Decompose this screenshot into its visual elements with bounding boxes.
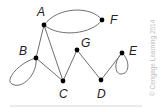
vertex-e <box>120 51 125 56</box>
graph-diagram: A B C D E F G © Cengage Learning 2014 <box>0 0 163 108</box>
label-e: E <box>129 44 138 58</box>
vertex-g <box>75 48 80 53</box>
graph-canvas: A B C D E F G © Cengage Learning 2014 <box>0 0 163 108</box>
vertex-a <box>42 23 47 28</box>
edge-g-d <box>77 50 101 80</box>
label-b: B <box>19 44 27 58</box>
edge-a-f-upper <box>44 10 102 25</box>
vertex-d <box>99 78 104 83</box>
edge-b-loop <box>10 58 36 85</box>
label-d: D <box>97 87 106 101</box>
label-c: C <box>59 87 68 101</box>
edge-e-loop <box>116 53 128 74</box>
edge-a-f-lower <box>44 20 102 33</box>
copyright-watermark: © Cengage Learning 2014 <box>149 19 157 96</box>
label-f: F <box>110 13 118 27</box>
edge-a-b <box>36 25 44 58</box>
edge-c-g <box>63 50 77 81</box>
label-a: A <box>36 5 45 19</box>
vertex-c <box>61 79 66 84</box>
vertex-f <box>100 18 105 23</box>
vertex-b <box>34 56 39 61</box>
label-g: G <box>81 36 90 50</box>
